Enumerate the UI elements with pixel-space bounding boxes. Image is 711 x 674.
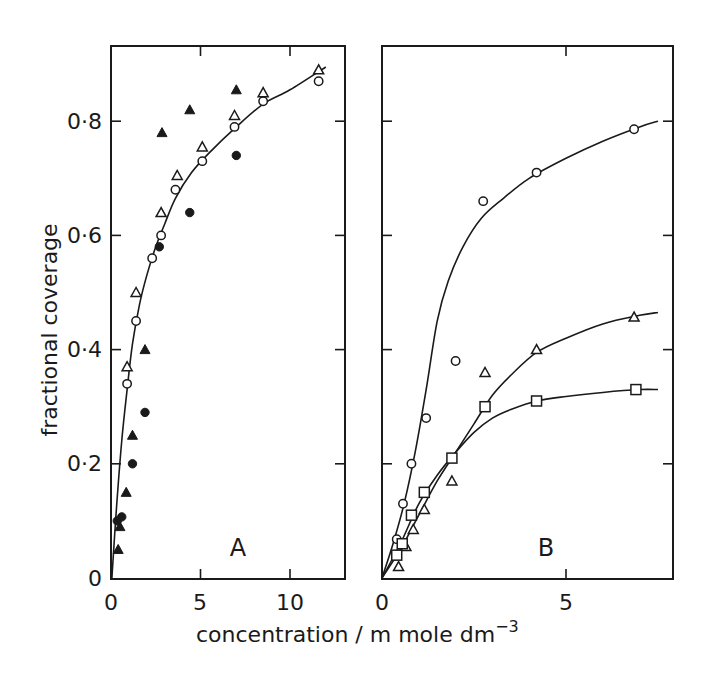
square-marker — [631, 385, 641, 395]
circle-marker — [186, 208, 194, 216]
y-tick-label-0-8: 0·8 — [67, 109, 102, 134]
y-tick-label-0-6: 0·6 — [67, 223, 102, 248]
circle-marker — [230, 123, 238, 131]
circle-marker — [155, 243, 163, 251]
data-markers — [113, 65, 641, 571]
triangle-marker — [394, 562, 404, 571]
triangle-marker — [230, 110, 240, 119]
triangle-marker — [258, 88, 268, 97]
triangle-marker — [172, 170, 182, 179]
circle-marker — [422, 414, 430, 422]
circle-marker — [198, 157, 206, 165]
circle-marker — [399, 500, 407, 508]
circle-marker — [128, 460, 136, 468]
circle-marker — [232, 151, 240, 159]
circle-marker — [532, 168, 540, 176]
y-tick-label-0-2: 0·2 — [67, 451, 102, 476]
triangle-marker — [185, 105, 195, 114]
triangle-marker — [480, 367, 490, 376]
triangle-marker — [197, 142, 207, 151]
circle-marker — [148, 254, 156, 262]
triangle-marker — [231, 85, 241, 94]
square-marker — [419, 487, 429, 497]
circle-marker — [171, 186, 179, 194]
chart-figure: 0 0·2 0·4 0·6 0·8 0 5 10 0 5 fractional … — [0, 0, 711, 674]
triangle-marker — [121, 487, 131, 496]
panel-label-a: A — [230, 534, 247, 562]
panel-b-frame — [382, 46, 673, 579]
triangle-marker — [408, 524, 418, 533]
square-marker — [532, 396, 542, 406]
axis-ticks — [111, 46, 673, 579]
a-x-tick-label-10: 10 — [276, 590, 304, 615]
y-tick-label-0-4: 0·4 — [67, 337, 102, 362]
triangle-marker — [419, 504, 429, 513]
circle-marker — [259, 97, 267, 105]
b-x-tick-label-0: 0 — [375, 590, 389, 615]
circle-marker — [479, 197, 487, 205]
fit-curve — [382, 312, 658, 578]
triangle-marker — [131, 288, 141, 297]
square-marker — [397, 539, 407, 549]
square-marker — [406, 510, 416, 520]
y-axis-label: fractional coverage — [37, 223, 62, 436]
square-marker — [447, 453, 457, 463]
y-tick-label-0: 0 — [88, 566, 102, 591]
circle-marker — [407, 460, 415, 468]
circle-marker — [141, 408, 149, 416]
circle-marker — [314, 77, 322, 85]
triangle-marker — [140, 345, 150, 354]
x-axis-label: concentration / m mole dm−3 — [196, 617, 519, 647]
circle-marker — [157, 231, 165, 239]
circle-marker — [132, 317, 140, 325]
x-axis-label-exponent: −3 — [495, 617, 519, 636]
triangle-marker — [157, 128, 167, 137]
fit-curves — [112, 67, 658, 578]
circle-marker — [451, 357, 459, 365]
circle-marker — [630, 125, 638, 133]
square-marker — [392, 550, 402, 560]
triangle-marker — [447, 476, 457, 485]
triangle-marker — [156, 208, 166, 217]
a-x-tick-label-0: 0 — [104, 590, 118, 615]
square-marker — [480, 402, 490, 412]
x-axis-label-main: concentration / m mole dm — [196, 622, 495, 647]
panel-a-frame — [111, 46, 345, 579]
fit-curve — [112, 67, 326, 578]
triangle-marker — [127, 430, 137, 439]
circle-marker — [118, 513, 126, 521]
triangle-marker — [532, 345, 542, 354]
circle-marker — [123, 380, 131, 388]
panel-label-b: B — [538, 534, 554, 562]
b-x-tick-label-5: 5 — [559, 590, 573, 615]
a-x-tick-label-5: 5 — [193, 590, 207, 615]
